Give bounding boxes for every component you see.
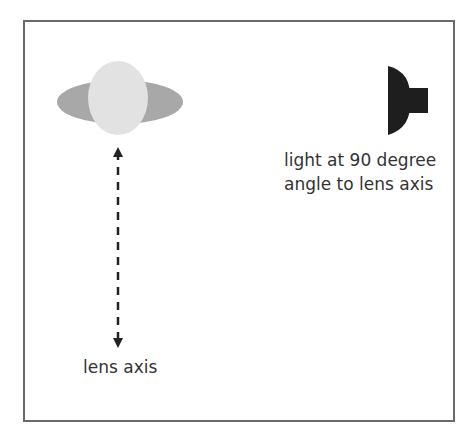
light-label-line-1: light at 90 degree bbox=[284, 148, 454, 172]
lens-inner-circle bbox=[88, 61, 148, 135]
lens bbox=[57, 61, 183, 135]
diagram-canvas bbox=[0, 0, 467, 430]
light-source-icon bbox=[388, 66, 428, 135]
light-source-label: light at 90 degree angle to lens axis bbox=[284, 148, 454, 196]
light-label-line-2: angle to lens axis bbox=[284, 172, 454, 196]
lens-axis-label: lens axis bbox=[83, 355, 157, 379]
